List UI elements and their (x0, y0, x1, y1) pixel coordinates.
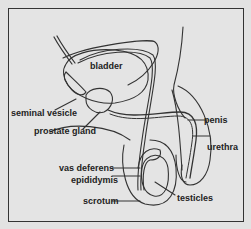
label-vas-deferens: vas deferens (59, 163, 114, 173)
label-penis: penis (204, 115, 228, 125)
label-bladder: bladder (90, 61, 123, 71)
label-testicles: testicles (177, 193, 213, 203)
label-scrotum: scrotum (83, 196, 119, 206)
label-urethra: urethra (207, 142, 238, 152)
label-seminal-vesicle: seminal vesicle (11, 108, 77, 118)
label-prostate-gland: prostate gland (34, 126, 96, 136)
label-epididymis: epididymis (71, 175, 118, 185)
